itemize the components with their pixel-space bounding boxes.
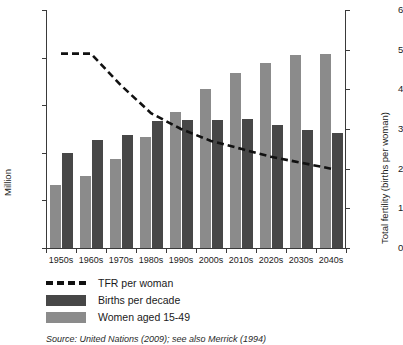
dash-segment	[46, 281, 53, 285]
tfr-line-path	[61, 54, 331, 169]
y-axis-right-tick-label: 2	[398, 164, 403, 174]
x-axis-tick	[106, 249, 107, 253]
legend-label: Births per decade	[98, 294, 180, 307]
x-axis-label-1990s: 1990s	[166, 256, 196, 265]
dash-segment	[79, 281, 86, 285]
y-axis-right-tick-label: 1	[398, 203, 403, 213]
y-axis-right-tick	[346, 129, 350, 130]
y-axis-left-title: Million	[2, 169, 13, 196]
x-axis-tick	[346, 249, 347, 253]
legend-label: Women aged 15-49	[98, 311, 190, 324]
x-axis-label-1950s: 1950s	[46, 256, 76, 265]
x-axis-label-1980s: 1980s	[136, 256, 166, 265]
legend-item-0: TFR per woman	[46, 276, 296, 292]
y-axis-right-title: Total fertility (births per woman)	[379, 112, 390, 244]
x-axis-tick	[286, 249, 287, 253]
legend-dashed-line-icon	[46, 281, 86, 285]
legend-label: TFR per woman	[98, 277, 173, 290]
legend-swatch-icon	[46, 295, 86, 306]
dash-segment	[68, 281, 75, 285]
x-axis-label-2040s: 2040s	[316, 256, 346, 265]
x-axis-tick	[136, 249, 137, 253]
legend-item-2: Women aged 15-49	[46, 310, 296, 326]
y-axis-right-tick	[346, 50, 350, 51]
legend-swatch-icon	[46, 312, 86, 323]
x-axis-label-2030s: 2030s	[286, 256, 316, 265]
y-axis-right-tick-label: 0	[398, 243, 403, 253]
x-axis-label-2000s: 2000s	[196, 256, 226, 265]
x-axis-tick	[196, 249, 197, 253]
x-axis-tick	[166, 249, 167, 253]
x-axis-label-2020s: 2020s	[256, 256, 286, 265]
x-axis-tick	[46, 249, 47, 253]
x-axis-label-1960s: 1960s	[76, 256, 106, 265]
y-axis-right-tick	[346, 208, 350, 209]
x-axis-label-1970s: 1970s	[106, 256, 136, 265]
y-axis-right-tick-label: 5	[398, 45, 403, 55]
x-axis-label-2010s: 2010s	[226, 256, 256, 265]
y-axis-right-tick	[346, 10, 350, 11]
x-axis-tick	[76, 249, 77, 253]
y-axis-right-tick	[346, 169, 350, 170]
dash-segment	[57, 281, 64, 285]
x-axis-tick	[226, 249, 227, 253]
chart-legend: TFR per womanBirths per decadeWomen aged…	[46, 276, 296, 327]
tfr-line-series	[46, 10, 346, 248]
y-axis-right-tick-label: 3	[398, 124, 403, 134]
legend-item-1: Births per decade	[46, 293, 296, 309]
y-axis-right-tick	[346, 89, 350, 90]
x-axis-tick	[316, 249, 317, 253]
plot-area: 05001,0001,5002,0002,500 0123456 1950s19…	[46, 10, 346, 248]
x-axis-tick	[256, 249, 257, 253]
y-axis-right-tick-label: 4	[398, 84, 403, 94]
y-axis-right-tick-label: 6	[398, 5, 403, 15]
source-caption: Source: United Nations (2009); see also …	[46, 334, 266, 344]
